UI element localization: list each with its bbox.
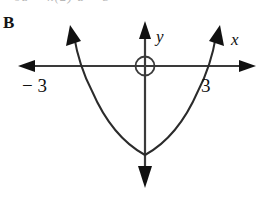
parabola-left-branch-arrowhead — [66, 25, 81, 46]
parabola-right-branch-arrowhead — [209, 25, 224, 46]
y-axis-down-arrowhead — [138, 166, 152, 188]
y-axis — [138, 21, 152, 188]
x-intercept-label-negative-three: − 3 — [22, 76, 47, 95]
y-axis-up-arrowhead — [139, 21, 151, 39]
y-axis-label: y — [156, 28, 164, 45]
figure-panel-b: + 6a = h(2) a = 3 B y x − 3 3 — [0, 0, 273, 200]
x-axis-left-arrowhead — [18, 60, 35, 72]
x-intercept-label-positive-three: 3 — [201, 76, 211, 95]
x-axis-right-arrowhead — [239, 60, 256, 72]
x-axis-label: x — [231, 31, 239, 48]
